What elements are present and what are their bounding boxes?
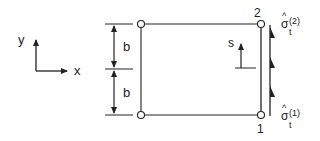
traction-arrow-icon (270, 27, 275, 38)
node-circle-icon (138, 21, 145, 28)
x-axis-label: x (74, 63, 81, 78)
node-1-circle-icon (258, 112, 265, 119)
sigma-symbol: σ (281, 17, 289, 31)
traction-label-top: ^ σ (2) t (281, 11, 300, 37)
traction-label-bottom: ^ σ (1) t (281, 103, 300, 130)
subscript: t (289, 27, 292, 37)
y-axis-label: y (18, 32, 25, 47)
element-rectangle: 2 1 (138, 6, 265, 136)
dimension-label-lower: b (123, 85, 130, 100)
global-axes: y x (18, 32, 81, 78)
s-label: s (228, 36, 234, 50)
element-diagram: y x b b 2 1 s ^ (0, 0, 320, 141)
node-2-label: 2 (254, 6, 261, 20)
node-circle-icon (138, 112, 145, 119)
dimension-markers: b b (105, 24, 133, 115)
diagram-canvas: y x b b 2 1 s ^ (0, 0, 320, 141)
superscript: (2) (289, 16, 300, 26)
node-2-circle-icon (258, 21, 265, 28)
subscript: t (289, 120, 292, 130)
sigma-symbol: σ (281, 109, 289, 123)
node-1-label: 1 (257, 122, 264, 136)
traction-arrows (270, 25, 275, 116)
local-s-axis: s (228, 36, 256, 68)
traction-arrow-icon (270, 86, 275, 97)
traction-arrow-icon (270, 57, 275, 68)
superscript: (1) (289, 108, 300, 118)
dimension-label-upper: b (123, 39, 130, 54)
